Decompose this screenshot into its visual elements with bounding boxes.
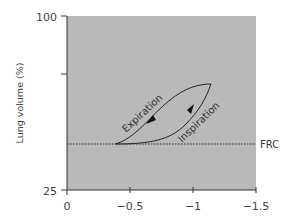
x-label-1-5: −1.5 — [243, 200, 270, 213]
y-label-100: 100 — [36, 11, 57, 24]
y-label-25: 25 — [43, 185, 57, 198]
frc-label: FRC — [260, 139, 279, 150]
pressure-volume-chart: 100 25 0 −0.5 −1 −1.5 Lung volume (%) FR… — [0, 0, 290, 224]
x-label-1: −1 — [185, 200, 201, 213]
plot-area — [67, 16, 256, 190]
x-label-0: 0 — [64, 200, 71, 213]
y-axis-title: Lung volume (%) — [14, 63, 25, 144]
x-label-0-5: −0.5 — [117, 200, 144, 213]
